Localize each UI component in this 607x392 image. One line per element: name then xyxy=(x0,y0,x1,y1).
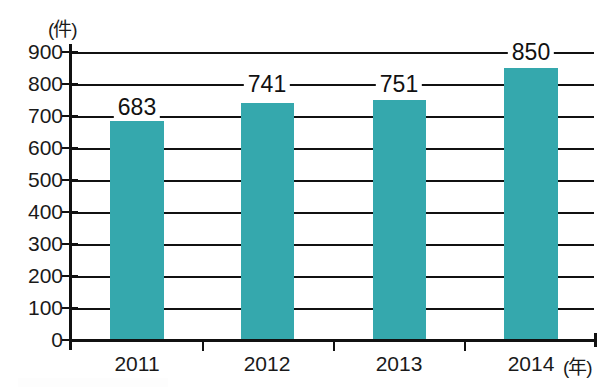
x-axis-unit-label: (年) xyxy=(563,352,592,379)
x-tick-label-2012: 2012 xyxy=(244,352,291,376)
y-tick-label-700: 700 xyxy=(5,104,63,128)
data-label-2013: 751 xyxy=(376,73,422,96)
y-tick-label-800: 800 xyxy=(5,72,63,96)
bar-2014 xyxy=(504,68,558,340)
bar-chart: (件) 900 800 700 600 500 400 300 200 100 … xyxy=(0,0,607,392)
data-label-2012: 741 xyxy=(244,73,290,96)
x-tick-label-2014: 2014 xyxy=(508,352,555,376)
x-tick-mark-3 xyxy=(464,340,466,351)
bar-2011 xyxy=(110,121,164,340)
data-label-2014: 850 xyxy=(508,41,554,64)
y-tick-label-0: 0 xyxy=(5,328,63,352)
y-tick-label-200: 200 xyxy=(5,264,63,288)
y-tick-label-600: 600 xyxy=(5,136,63,160)
y-tick-label-300: 300 xyxy=(5,232,63,256)
x-axis-end-cap xyxy=(594,333,597,347)
data-label-2011: 683 xyxy=(114,96,160,119)
bar-2013 xyxy=(373,100,426,340)
footer-artifact xyxy=(18,378,168,387)
y-axis-tick-labels: 900 800 700 600 500 400 300 200 100 0 xyxy=(0,0,63,392)
bar-2012 xyxy=(241,103,294,340)
x-tick-mark-2 xyxy=(333,340,335,351)
y-tick-label-500: 500 xyxy=(5,168,63,192)
y-tick-label-100: 100 xyxy=(5,296,63,320)
x-tick-mark-1 xyxy=(202,340,204,351)
x-tick-label-2013: 2013 xyxy=(376,352,423,376)
y-tick-label-400: 400 xyxy=(5,200,63,224)
y-tick-label-900: 900 xyxy=(5,40,63,64)
x-tick-label-2011: 2011 xyxy=(114,352,159,376)
